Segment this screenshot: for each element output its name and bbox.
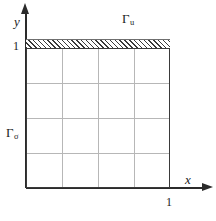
y-axis-arrow-icon — [21, 3, 29, 14]
gamma-symbol: Γ — [6, 125, 14, 140]
x-axis-arrow-icon — [202, 183, 213, 191]
mesh-grid-line-horizontal — [27, 153, 169, 154]
mesh-grid-line-horizontal — [27, 83, 169, 84]
gamma-subscript-sigma: σ — [14, 131, 19, 141]
dirichlet-boundary-hatch — [26, 39, 170, 48]
neumann-boundary-label: Γσ — [6, 126, 19, 141]
dirichlet-boundary-label: Γu — [122, 12, 134, 27]
x-axis-label: x — [185, 173, 191, 186]
mesh-grid-line-horizontal — [27, 118, 169, 119]
gamma-subscript-u: u — [130, 17, 135, 27]
y-axis-label: y — [14, 15, 20, 28]
y-axis-tick-label-1: 1 — [13, 40, 19, 52]
figure-canvas: y x 1 1 Γu Γσ — [0, 0, 216, 221]
domain-square — [26, 48, 170, 188]
x-axis-tick-label-1: 1 — [166, 196, 172, 208]
gamma-symbol: Γ — [122, 11, 130, 26]
